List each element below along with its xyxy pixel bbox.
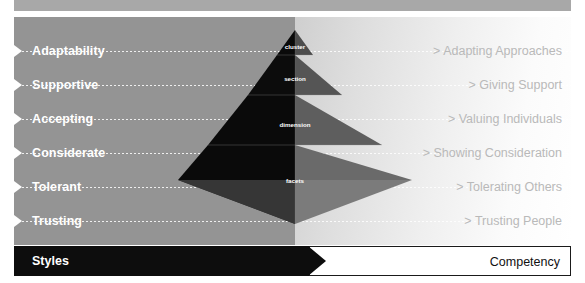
style-label: Trusting [32,204,82,238]
diagram-canvas: cluster section dimension facets Adaptab… [0,0,585,283]
row-supportive[interactable]: Supportive > Giving Support [14,68,571,102]
style-label: Considerate [32,136,105,170]
chevron-right-icon [14,181,22,193]
competency-label: > Trusting People [464,204,562,238]
competency-label: > Adapting Approaches [433,34,562,68]
row-trusting[interactable]: Trusting > Trusting People [14,204,571,238]
footer-bar: Competency Styles [14,246,571,276]
footer-competency-label: Competency [490,247,560,277]
chevron-right-icon [14,147,22,159]
competency-label: > Tolerating Others [456,170,562,204]
style-label: Supportive [32,68,98,102]
footer-competency-section[interactable]: Competency [309,246,571,276]
chevron-right-icon [14,215,22,227]
style-label: Accepting [32,102,93,136]
chevron-right-icon [14,113,22,125]
top-partial-strip [14,0,571,11]
footer-arrow-icon [308,246,326,276]
row-accepting[interactable]: Accepting > Valuing Individuals [14,102,571,136]
footer-styles-section[interactable]: Styles [14,246,309,276]
style-label: Adaptability [32,34,105,68]
row-considerate[interactable]: Considerate > Showing Consideration [14,136,571,170]
style-label: Tolerant [32,170,81,204]
row-adaptability[interactable]: Adaptability > Adapting Approaches [14,34,571,68]
chevron-right-icon [14,45,22,57]
pyramid-panel: cluster section dimension facets Adaptab… [14,17,571,245]
chevron-right-icon [14,79,22,91]
footer-styles-label: Styles [32,246,69,276]
competency-label: > Giving Support [469,68,562,102]
row-tolerant[interactable]: Tolerant > Tolerating Others [14,170,571,204]
competency-label: > Valuing Individuals [448,102,562,136]
competency-label: > Showing Consideration [423,136,562,170]
